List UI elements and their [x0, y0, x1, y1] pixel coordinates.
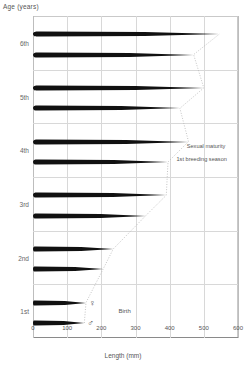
- y-axis-tick-label: 4th: [3, 147, 29, 154]
- y-axis-tick-label: 3rd: [3, 200, 29, 207]
- fish-silhouette: [33, 30, 219, 39]
- fish-silhouette: [33, 137, 188, 146]
- gridline-vertical: [238, 16, 239, 338]
- x-axis-title: Length (mm): [0, 352, 246, 359]
- gridline-horizontal: [33, 284, 238, 285]
- y-axis-tick-label: 5th: [3, 93, 29, 100]
- female-symbol-icon: ♀: [89, 298, 96, 307]
- gridline-horizontal: [33, 123, 238, 124]
- x-axis-tick-label: 500: [199, 325, 209, 331]
- y-axis-tick-label: 2nd: [3, 254, 29, 261]
- fish-silhouette: [33, 50, 194, 59]
- annotation-birth: Birth: [118, 308, 130, 314]
- fish-silhouette: [33, 265, 103, 274]
- x-axis-tick-label: 300: [130, 325, 140, 331]
- gridline-horizontal: [33, 70, 238, 71]
- y-axis-tick-label: 1st: [3, 308, 29, 315]
- x-axis-tick-label: 100: [62, 325, 72, 331]
- fish-silhouette: [33, 191, 166, 200]
- x-axis-tick-label: 600: [233, 325, 243, 331]
- growth-chart: Age (years) Length (mm) ♀♂BirthSexual ma…: [0, 0, 246, 366]
- fish-silhouette: [33, 244, 113, 253]
- fish-silhouette: [33, 318, 84, 327]
- gridline-horizontal: [33, 177, 238, 178]
- annotation-first-breeding-season: 1st breeding season: [177, 156, 227, 162]
- x-axis-tick-label: 200: [96, 325, 106, 331]
- plot-area: ♀♂BirthSexual maturity1st breeding seaso…: [33, 16, 238, 338]
- x-axis-tick-label: 0: [31, 325, 34, 331]
- fish-silhouette: [33, 104, 180, 113]
- gridline-horizontal: [33, 231, 238, 232]
- y-axis-title: Age (years): [3, 3, 39, 10]
- male-symbol-icon: ♂: [87, 318, 94, 327]
- y-axis-tick-label: 6th: [3, 39, 29, 46]
- annotation-sexual-maturity: Sexual maturity: [187, 143, 226, 149]
- fish-silhouette: [33, 298, 86, 307]
- fish-silhouette: [33, 157, 168, 166]
- fish-silhouette: [33, 83, 204, 92]
- fish-silhouette: [33, 211, 146, 220]
- x-axis-tick-label: 400: [165, 325, 175, 331]
